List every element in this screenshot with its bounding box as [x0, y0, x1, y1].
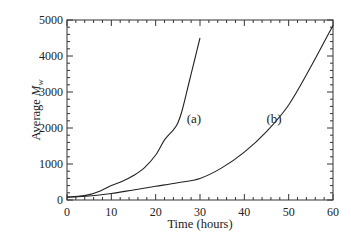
x-axis-title: Time (hours): [167, 217, 232, 231]
y-axis-title: Average Mw: [29, 80, 45, 141]
y-axis-title-sub: w: [35, 80, 45, 86]
x-tick-label: 0: [64, 205, 70, 219]
y-axis-title-var: M: [29, 85, 43, 97]
y-axis-title-prefix: Average: [29, 96, 43, 141]
curve-a: [67, 38, 200, 197]
y-tick-label: 0: [57, 193, 63, 207]
curve-label-a: (a): [187, 111, 201, 126]
curve-label-b: (b): [267, 111, 282, 126]
x-tick-label: 10: [105, 205, 117, 219]
x-tick-label: 50: [283, 205, 295, 219]
y-tick-label: 4000: [39, 49, 63, 63]
x-tick-label: 20: [150, 205, 162, 219]
line-chart: 0102030405060 010002000300040005000 (a) …: [0, 0, 351, 245]
x-tick-label: 60: [327, 205, 339, 219]
x-tick-label: 40: [238, 205, 250, 219]
y-tick-label: 1000: [39, 157, 63, 171]
y-tick-label: 5000: [39, 13, 63, 27]
